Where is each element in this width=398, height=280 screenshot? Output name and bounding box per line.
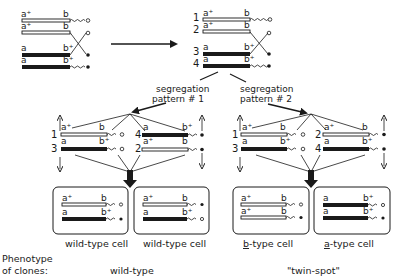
allele-label: b — [101, 193, 107, 203]
chromatid-bar-filled — [22, 65, 70, 69]
allele-label: b⁺ — [244, 54, 255, 64]
chromatid-number: 3 — [193, 46, 199, 57]
allele-label: a⁺ — [143, 193, 154, 203]
pattern-1: 1 a⁺ b 3 a b⁺ 4 a b⁺ 2 a⁺ b — [51, 114, 204, 188]
allele-label: b⁺ — [182, 207, 193, 217]
allele-label: a — [143, 207, 149, 217]
arrow-down-thick-icon — [304, 170, 318, 188]
allele-label: a — [242, 136, 248, 146]
allele-label: a⁺ — [203, 8, 214, 18]
chromatid-number: 1 — [193, 12, 199, 23]
phenotype-twin-spot: "twin-spot" — [287, 265, 340, 276]
allele-label: a⁺ — [241, 206, 252, 216]
chromatid-number: 4 — [193, 58, 199, 69]
cell-label: wild-type cell — [65, 238, 128, 249]
cell-b-type: a⁺ b a⁺ b b-type cell — [233, 187, 309, 249]
cell-label: wild-type cell — [143, 238, 206, 249]
cell-a-type: a b⁺ a b⁺ a-type cell — [314, 187, 390, 249]
arrow-icon — [133, 103, 166, 112]
allele-label: a — [62, 207, 68, 217]
cell-wild-type-2: a⁺ b a b⁺ wild-type cell — [134, 187, 209, 249]
allele-label: a — [143, 122, 149, 132]
pattern-2: 1 a⁺ b 3 a b⁺ 2 a⁺ b 4 a b⁺ — [232, 114, 386, 188]
allele-label: a⁺ — [62, 193, 73, 203]
crossover-chromatids: 1 a⁺ b 2 a⁺ b 3 a b⁺ 4 a b⁺ — [193, 8, 272, 69]
allele-label: b⁺ — [362, 136, 373, 146]
allele-label: a⁺ — [21, 9, 32, 19]
chromatid-number: 3 — [232, 143, 238, 154]
allele-label: b — [280, 122, 286, 132]
allele-label: b — [63, 9, 69, 19]
allele-label: a⁺ — [324, 122, 335, 132]
chromatid-number: 2 — [315, 129, 321, 140]
allele-label: b — [99, 122, 105, 132]
allele-label: b⁺ — [363, 193, 374, 203]
allele-label: a — [324, 136, 330, 146]
allele-label: b — [281, 206, 287, 216]
allele-label: b — [182, 193, 188, 203]
chromatid-number: 2 — [193, 24, 199, 35]
mitotic-recombination-diagram: a⁺ b a⁺ b a b⁺ a b⁺ 1 a⁺ b 2 a⁺ b — [0, 0, 398, 280]
centromere-open — [86, 19, 90, 23]
allele-label: a — [21, 55, 27, 65]
allele-label: a — [323, 206, 329, 216]
allele-label: b⁺ — [101, 207, 112, 217]
initial-chromatids: a⁺ b a⁺ b a b⁺ a b⁺ — [21, 9, 90, 69]
pattern-1-label: pattern # 1 — [152, 94, 204, 104]
arrow-down-thick-icon — [123, 170, 137, 188]
chromatid-number: 1 — [51, 129, 57, 140]
pattern-1-label: segregation — [156, 84, 209, 94]
allele-label: b⁺ — [182, 122, 193, 132]
phenotype-label: Phenotype — [2, 253, 53, 264]
allele-label: a⁺ — [61, 122, 72, 132]
chromatid-number: 3 — [51, 143, 57, 154]
arrow-icon — [268, 104, 306, 113]
allele-label: b — [63, 21, 69, 31]
allele-label: a — [203, 42, 209, 52]
pattern-2-label: pattern # 2 — [240, 94, 292, 104]
chromatid-number: 4 — [315, 143, 321, 154]
allele-label: a⁺ — [242, 122, 253, 132]
phenotype-wild-type: wild-type — [110, 265, 154, 276]
cell-label: a-type cell — [324, 238, 374, 249]
chromatid-number: 1 — [232, 129, 238, 140]
chromatid-number: 2 — [135, 143, 141, 154]
allele-label: a⁺ — [143, 136, 154, 146]
cell-label: b-type cell — [243, 238, 293, 249]
chromatid-number: 4 — [135, 129, 141, 140]
chromatid-bar-open — [22, 31, 70, 34]
allele-label: a — [21, 43, 27, 53]
allele-label: a — [323, 193, 329, 203]
cell-wild-type-1: a⁺ b a b⁺ wild-type cell — [53, 187, 128, 249]
allele-label: a⁺ — [241, 193, 252, 203]
allele-label: b⁺ — [63, 55, 74, 65]
allele-label: a — [61, 136, 67, 146]
allele-label: b⁺ — [99, 136, 110, 146]
allele-label: a⁺ — [21, 21, 32, 31]
allele-label: a — [203, 54, 209, 64]
phenotype-label: of clones: — [2, 265, 48, 276]
allele-label: b⁺ — [363, 206, 374, 216]
allele-label: b — [281, 193, 287, 203]
allele-label: b⁺ — [280, 136, 291, 146]
allele-label: b — [244, 20, 250, 30]
allele-label: b — [244, 8, 250, 18]
pattern-2-label: segregation — [240, 84, 293, 94]
allele-label: b — [182, 136, 188, 146]
allele-label: b — [362, 122, 368, 132]
allele-label: a⁺ — [203, 20, 214, 30]
